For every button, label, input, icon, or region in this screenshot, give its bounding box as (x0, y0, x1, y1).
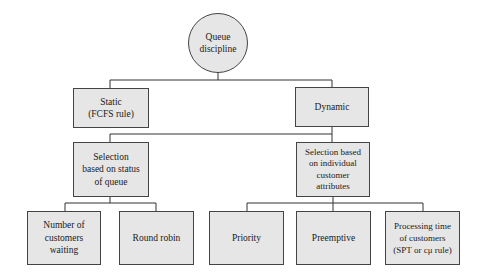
root-node-queue-discipline: Queue discipline (188, 13, 248, 73)
node-selection-status: Selection based on status of queue (73, 142, 149, 197)
node-number-waiting-label: Number of customers waiting (43, 219, 84, 257)
node-processing-time-label: Processing time of customers (SPT or cμ … (393, 220, 451, 256)
node-static: Static (FCFS rule) (73, 88, 149, 128)
node-number-waiting: Number of customers waiting (27, 211, 101, 265)
node-round-robin: Round robin (119, 211, 194, 265)
root-label: Queue discipline (200, 31, 237, 56)
node-priority: Priority (209, 211, 284, 265)
node-static-label: Static (FCFS rule) (88, 96, 134, 121)
node-selection-attributes-label: Selection based on individual customer a… (305, 147, 361, 193)
node-dynamic-label: Dynamic (315, 101, 350, 114)
node-priority-label: Priority (232, 232, 261, 245)
node-processing-time: Processing time of customers (SPT or cμ … (385, 211, 460, 265)
node-round-robin-label: Round robin (133, 232, 181, 245)
node-preemptive: Preemptive (296, 211, 371, 265)
node-selection-status-label: Selection based on status of queue (82, 151, 140, 189)
node-preemptive-label: Preemptive (312, 232, 355, 245)
node-selection-attributes: Selection based on individual customer a… (296, 142, 370, 197)
node-dynamic: Dynamic (295, 87, 369, 127)
